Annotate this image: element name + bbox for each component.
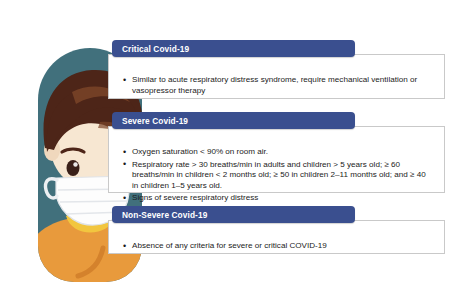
- panel-severe-bullet-list: Oxygen saturation < 90% on room air. Res…: [123, 147, 434, 204]
- panel-severe-header[interactable]: Severe Covid-19: [112, 112, 355, 129]
- panel-critical-body: Similar to acute respiratory distress sy…: [109, 55, 444, 101]
- panel-critical-box: Similar to acute respiratory distress sy…: [108, 54, 445, 99]
- panel-non-severe-header[interactable]: Non-Severe Covid-19: [112, 206, 355, 223]
- panel-non-severe-covid19: Absence of any criteria for severe or cr…: [106, 206, 445, 254]
- list-item: Absence of any criteria for severe or cr…: [123, 241, 434, 252]
- panel-non-severe-bullet-list: Absence of any criteria for severe or cr…: [123, 241, 434, 252]
- eye-highlight: [73, 162, 77, 166]
- panel-non-severe-box: Absence of any criteria for severe or cr…: [108, 220, 445, 254]
- panel-severe-box: Oxygen saturation < 90% on room air. Res…: [108, 126, 445, 193]
- panel-non-severe-header-label: Non-Severe Covid-19: [112, 210, 207, 220]
- panel-non-severe-body: Absence of any criteria for severe or cr…: [109, 221, 444, 257]
- list-item: Similar to acute respiratory distress sy…: [123, 75, 434, 96]
- panel-critical-covid19: Similar to acute respiratory distress sy…: [106, 40, 445, 99]
- panel-critical-bullet-list: Similar to acute respiratory distress sy…: [123, 75, 434, 96]
- panel-severe-header-label: Severe Covid-19: [112, 116, 188, 126]
- panel-severe-covid19: Oxygen saturation < 90% on room air. Res…: [106, 112, 445, 193]
- panel-critical-header-label: Critical Covid-19: [112, 44, 189, 54]
- panel-critical-header[interactable]: Critical Covid-19: [112, 40, 355, 57]
- eye: [67, 160, 80, 176]
- panel-severe-body: Oxygen saturation < 90% on room air. Res…: [109, 127, 444, 209]
- list-item: Signs of severe respiratory distress: [123, 193, 434, 204]
- list-item: Oxygen saturation < 90% on room air.: [123, 147, 434, 158]
- list-item: Respiratory rate > 30 breaths/min in adu…: [123, 160, 434, 192]
